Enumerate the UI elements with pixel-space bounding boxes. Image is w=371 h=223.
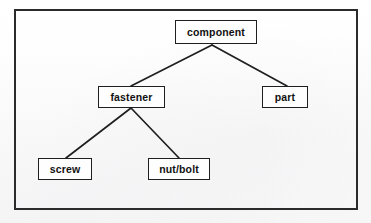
tree-diagram-figure: component fastener part screw nut/bolt	[0, 0, 371, 223]
node-nut-bolt[interactable]: nut/bolt	[148, 158, 210, 180]
node-fastener-label: fastener	[110, 91, 152, 102]
node-screw[interactable]: screw	[38, 158, 92, 180]
node-fastener[interactable]: fastener	[98, 86, 165, 108]
node-component[interactable]: component	[175, 20, 257, 44]
node-part[interactable]: part	[262, 86, 308, 108]
node-part-label: part	[275, 91, 295, 102]
node-screw-label: screw	[50, 163, 81, 174]
node-component-label: component	[187, 26, 245, 37]
node-nut-bolt-label: nut/bolt	[159, 163, 199, 174]
